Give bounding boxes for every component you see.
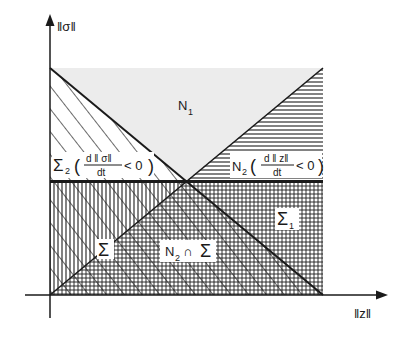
svg-text:Σ: Σ — [98, 240, 109, 260]
y-axis-label: ‖σ‖ — [57, 19, 76, 34]
svg-text:1: 1 — [188, 107, 193, 117]
svg-text:dt: dt — [97, 167, 106, 178]
label-sigma2: Σ 2 ( d ‖ σ‖ dt < 0 ) — [52, 152, 154, 178]
svg-text:< 0: < 0 — [124, 158, 142, 173]
svg-text:∩: ∩ — [183, 244, 192, 259]
label-sigma1: Σ 1 — [275, 208, 299, 231]
svg-text:d ‖ z‖: d ‖ z‖ — [264, 153, 288, 164]
svg-text:N: N — [178, 98, 187, 113]
x-axis-arrow-icon — [376, 291, 388, 300]
svg-text:(: ( — [74, 156, 80, 176]
svg-text:Σ: Σ — [200, 241, 211, 261]
x-axis-label: ‖z‖ — [354, 306, 371, 321]
svg-text:Σ: Σ — [277, 209, 288, 229]
svg-text:N: N — [232, 159, 241, 174]
label-n2-cap-sigma: N 2 ∩ Σ — [160, 240, 216, 263]
svg-text:dt: dt — [273, 167, 282, 178]
svg-text:2: 2 — [65, 166, 70, 176]
phase-diagram: ‖σ‖ ‖z‖ N 1 Σ 2 ( d ‖ σ‖ dt < 0 ) N 2 ( … — [0, 0, 408, 337]
svg-text:d ‖ σ‖: d ‖ σ‖ — [86, 153, 112, 164]
svg-text:2: 2 — [242, 167, 247, 177]
label-sigma: Σ — [97, 239, 114, 260]
label-n2: N 2 ( d ‖ z‖ dt < 0 ) — [230, 152, 324, 178]
svg-text:2: 2 — [175, 253, 180, 263]
svg-text:(: ( — [250, 156, 256, 176]
y-axis-arrow-icon — [46, 14, 55, 26]
svg-text:< 0: < 0 — [296, 158, 314, 173]
svg-text:): ) — [148, 156, 154, 176]
svg-text:N: N — [165, 244, 174, 259]
svg-text:): ) — [318, 156, 324, 176]
svg-text:1: 1 — [289, 221, 294, 231]
svg-text:Σ: Σ — [53, 156, 64, 175]
